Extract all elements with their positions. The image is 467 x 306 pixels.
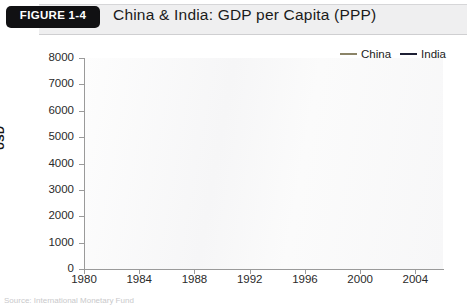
y-tick-label: 2000 <box>14 209 74 221</box>
plot-area <box>84 58 443 269</box>
plot-background <box>84 58 443 269</box>
y-tick-mark <box>79 84 84 85</box>
y-tick-mark <box>79 243 84 244</box>
x-tick-label: 1992 <box>220 273 280 285</box>
figure-title: China & India: GDP per Capita (PPP) <box>113 6 376 24</box>
y-tick-label: 5000 <box>14 130 74 142</box>
x-tick-label: 1996 <box>275 273 335 285</box>
figure-number-badge: FIGURE 1-4 <box>6 6 100 28</box>
legend-swatch-india <box>400 53 417 56</box>
x-tick-label: 1984 <box>109 273 169 285</box>
x-tick-label: 2000 <box>330 273 390 285</box>
legend-swatch-china <box>340 53 357 56</box>
y-tick-label: 3000 <box>14 183 74 195</box>
y-tick-label: 1000 <box>14 236 74 248</box>
y-tick-mark <box>79 137 84 138</box>
y-tick-mark <box>79 58 84 59</box>
y-tick-label: 7000 <box>14 77 74 89</box>
y-tick-mark <box>79 164 84 165</box>
x-axis-line <box>84 269 444 270</box>
figure-caption: Source: International Monetary Fund <box>4 296 334 305</box>
x-tick-label: 1988 <box>164 273 224 285</box>
y-axis-title: USD <box>0 126 6 150</box>
x-tick-label: 1980 <box>54 273 114 285</box>
y-tick-mark <box>79 111 84 112</box>
figure-container: FIGURE 1-4 China & India: GDP per Capita… <box>0 0 467 306</box>
figure-number-label: FIGURE 1-4 <box>6 9 100 21</box>
y-tick-mark <box>79 216 84 217</box>
x-tick-label: 2004 <box>385 273 445 285</box>
y-tick-label: 6000 <box>14 104 74 116</box>
y-tick-mark <box>79 190 84 191</box>
y-tick-label: 8000 <box>14 51 74 63</box>
y-tick-label: 4000 <box>14 157 74 169</box>
y-axis-line <box>84 58 85 270</box>
